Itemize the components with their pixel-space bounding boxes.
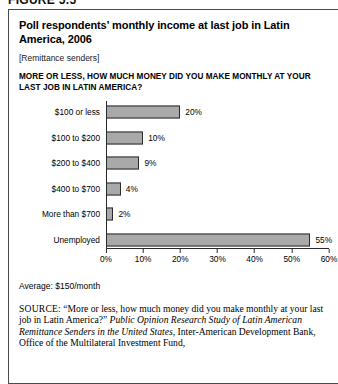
x-tick-label: 20%: [172, 254, 189, 265]
poll-question: MORE OR LESS, HOW MUCH MONEY DID YOU MAK…: [19, 71, 328, 93]
respondent-group-note: [Remittance senders]: [19, 53, 328, 64]
bar-track: 10%: [106, 129, 329, 147]
category-label: More than $700: [19, 209, 106, 219]
page-title: Poll respondents' monthly income at last…: [19, 19, 328, 46]
bar-track: 2%: [106, 205, 329, 223]
tick-mark: [143, 249, 144, 253]
bar-track: 55%: [106, 231, 329, 249]
bar-track: 9%: [106, 154, 329, 172]
plot-area: $100 or less 20% $100 to $200 10% $200 t…: [19, 103, 329, 249]
bar-chart: $100 or less 20% $100 to $200 10% $200 t…: [19, 103, 329, 271]
x-tick-label: 10%: [135, 254, 152, 265]
x-tick: 50%: [284, 249, 301, 265]
bar-segment: [106, 157, 139, 170]
bar-value-label: 2%: [118, 209, 130, 219]
bar-row: More than $700 2%: [19, 205, 329, 223]
x-tick: 20%: [172, 249, 189, 265]
bar-value-label: 10%: [148, 133, 165, 143]
x-tick: 40%: [246, 249, 263, 265]
bar-track: 20%: [106, 103, 329, 121]
bar-segment: [106, 131, 143, 144]
category-label: $400 to $700: [19, 184, 106, 194]
tick-mark: [328, 249, 329, 253]
bar-track: 4%: [106, 180, 329, 198]
x-tick-label: 50%: [284, 254, 301, 265]
tick-mark: [106, 249, 107, 253]
source-kicker: SOURCE:: [19, 303, 61, 314]
figure-number: FIGURE 5.5: [8, 0, 76, 6]
bar-segment: [106, 182, 121, 195]
category-label: $100 to $200: [19, 133, 106, 143]
bar-row: $400 to $700 4%: [19, 180, 329, 198]
bar-row: $200 to $400 9%: [19, 154, 329, 172]
x-axis-ticks: 0% 10% 20% 30% 40% 50%: [106, 249, 329, 271]
figure-panel: Poll respondents' monthly income at last…: [8, 9, 338, 384]
category-label: $200 to $400: [19, 158, 106, 168]
source-note: SOURCE: “More or less, how much money di…: [19, 303, 328, 349]
x-tick: 60%: [321, 249, 338, 265]
bar-value-label: 4%: [126, 184, 138, 194]
bar-segment: [106, 208, 113, 221]
bar-value-label: 55%: [315, 235, 332, 245]
bar-segment: [106, 106, 180, 119]
y-axis-line: [106, 101, 107, 249]
bar-value-label: 9%: [144, 158, 156, 168]
bar-row: Unemployed 55%: [19, 231, 329, 249]
bar-value-label: 20%: [185, 107, 202, 117]
x-tick: 30%: [209, 249, 226, 265]
average-note: Average: $150/month: [19, 281, 328, 292]
x-tick: 0%: [100, 249, 112, 265]
x-tick-label: 60%: [321, 254, 338, 265]
x-tick-label: 40%: [246, 254, 263, 265]
bar-segment: [106, 233, 310, 246]
tick-mark: [291, 249, 292, 253]
tick-mark: [254, 249, 255, 253]
category-label: $100 or less: [19, 107, 106, 117]
category-label: Unemployed: [19, 235, 106, 245]
x-tick-label: 30%: [209, 254, 226, 265]
x-tick: 10%: [135, 249, 152, 265]
bar-row: $100 or less 20%: [19, 103, 329, 121]
bar-rows: $100 or less 20% $100 to $200 10% $200 t…: [19, 103, 329, 249]
bar-row: $100 to $200 10%: [19, 129, 329, 147]
x-tick-label: 0%: [100, 254, 112, 265]
tick-mark: [217, 249, 218, 253]
tick-mark: [180, 249, 181, 253]
